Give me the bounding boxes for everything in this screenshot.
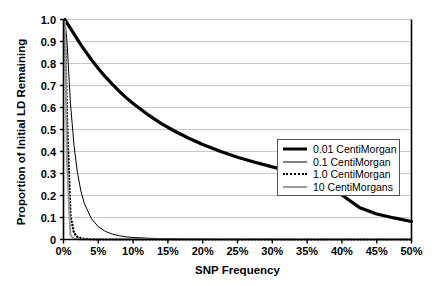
y-tick-label: 0.2: [22, 190, 56, 202]
x-axis-label: SNP Frequency: [63, 264, 412, 276]
y-tick-label: 0.1: [22, 212, 56, 224]
y-tick-label: 0.8: [22, 58, 56, 70]
legend-gray-line-icon: [282, 181, 308, 193]
legend-thin-black-line-icon: [282, 156, 308, 168]
y-tick-label: 0.4: [22, 146, 56, 158]
legend-item-label: 1.0 CentiMorgan: [313, 168, 391, 180]
legend-item-label: 10 CentiMorgans: [313, 181, 393, 193]
y-tick-label: 0.3: [22, 168, 56, 180]
legend-item: 10 CentiMorgans: [282, 181, 395, 194]
legend-item: 1.0 CentiMorgan: [282, 168, 395, 181]
legend-item-label: 0.01 CentiMorgan: [313, 143, 396, 155]
legend-item: 0.01 CentiMorgan: [282, 143, 395, 156]
chart-figure: Proportion of Initial LD Remaining SNP F…: [0, 0, 440, 286]
legend-item-label: 0.1 CentiMorgan: [313, 156, 391, 168]
legend-thick-black-line-icon: [282, 143, 308, 155]
legend-dotted-black-line-icon: [282, 168, 308, 180]
legend-item: 0.1 CentiMorgan: [282, 156, 395, 169]
y-tick-label: 0: [22, 234, 56, 246]
y-tick-label: 0.9: [22, 36, 56, 48]
y-tick-label: 0.7: [22, 80, 56, 92]
y-tick-label: 0.5: [22, 124, 56, 136]
chart-legend: 0.01 CentiMorgan0.1 CentiMorgan1.0 Centi…: [277, 139, 400, 196]
x-tick-label: 50%: [392, 245, 432, 257]
y-tick-label: 1.0: [22, 14, 56, 26]
y-tick-label: 0.6: [22, 102, 56, 114]
